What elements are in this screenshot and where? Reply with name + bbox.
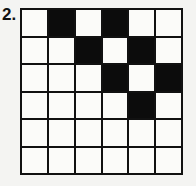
grid-cell-empty: [129, 120, 154, 146]
grid-cell-filled: [156, 65, 181, 91]
grid-cell-empty: [49, 38, 74, 64]
grid-cell-empty: [129, 10, 154, 36]
grid-cell-empty: [156, 10, 181, 36]
problem-number: 2.: [2, 5, 16, 25]
grid-cell-empty: [22, 120, 47, 146]
grid-cell-empty: [76, 65, 101, 91]
grid-cell-empty: [156, 38, 181, 64]
grid-cell-empty: [156, 93, 181, 119]
grid-cell-empty: [22, 93, 47, 119]
grid-cell-empty: [22, 10, 47, 36]
grid-cell-filled: [103, 10, 128, 36]
grid-cell-empty: [49, 93, 74, 119]
grid-cell-empty: [76, 148, 101, 174]
grid-cell-empty: [103, 38, 128, 64]
grid-cell-empty: [49, 148, 74, 174]
grid-cell-filled: [129, 93, 154, 119]
grid-cell-empty: [76, 10, 101, 36]
grid-cell-empty: [49, 65, 74, 91]
grid-cell-empty: [76, 93, 101, 119]
grid-cell-filled: [129, 38, 154, 64]
grid-cell-empty: [49, 120, 74, 146]
grid-cell-filled: [76, 38, 101, 64]
grid-cell-empty: [103, 148, 128, 174]
grid-cell-empty: [76, 120, 101, 146]
grid-cell-empty: [22, 65, 47, 91]
grid-cell-empty: [129, 148, 154, 174]
grid-cell-empty: [103, 93, 128, 119]
grid-cell-empty: [156, 148, 181, 174]
grid-cell-empty: [22, 148, 47, 174]
grid-cell-empty: [129, 65, 154, 91]
grid-cell-empty: [156, 120, 181, 146]
pattern-grid: [20, 8, 183, 175]
grid-cell-filled: [49, 10, 74, 36]
grid-cell-empty: [22, 38, 47, 64]
grid-cell-empty: [103, 120, 128, 146]
grid-cell-filled: [103, 65, 128, 91]
